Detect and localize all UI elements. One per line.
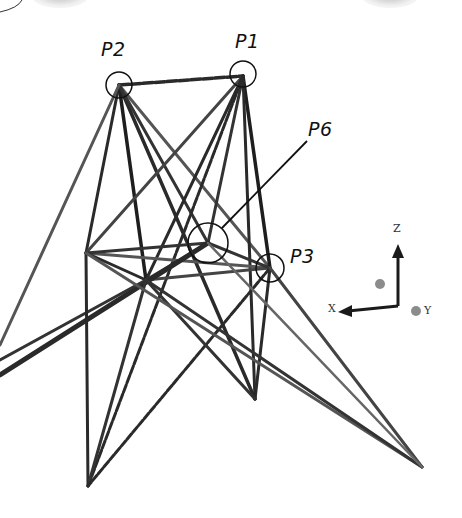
axis-label-y: Y — [424, 304, 431, 317]
truss-svg — [0, 0, 462, 518]
p6-leader-line — [222, 141, 307, 228]
partial-circle — [0, 0, 22, 12]
label-p6: P6 — [308, 118, 333, 140]
axis-label-z: Z — [393, 222, 401, 235]
label-p1: P1 — [235, 30, 260, 52]
label-p2: P2 — [101, 38, 126, 60]
label-p3: P3 — [290, 245, 315, 267]
axis-label-x: X — [328, 302, 336, 315]
truss-diagram: P2 P1 P6 P3 Z X Y — [0, 0, 462, 518]
truss-members — [0, 76, 422, 486]
axis-triad — [338, 244, 421, 317]
